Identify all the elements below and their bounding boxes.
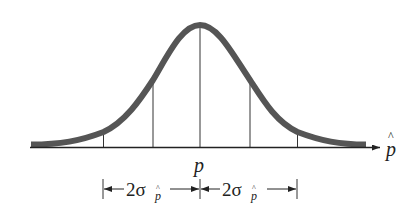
normal-curve-diagram: p ^ p 2σ p ^ 2σ p ^ (0, 0, 417, 216)
svg-text:^: ^ (252, 184, 256, 193)
left-interval-label: 2σ p ^ (126, 179, 161, 203)
svg-text:2σ: 2σ (126, 179, 146, 200)
axis-label-p-hat: p ^ (384, 129, 396, 161)
svg-text:2σ: 2σ (222, 179, 242, 200)
right-interval-label: 2σ p ^ (222, 179, 257, 203)
bell-curve (31, 25, 366, 145)
center-label-p: p (192, 154, 204, 177)
svg-text:^: ^ (156, 184, 160, 193)
svg-text:^: ^ (388, 129, 394, 143)
